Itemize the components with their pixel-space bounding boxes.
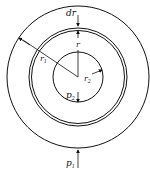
shell-diagram: dr r r1 r2 p2 p1: [0, 0, 150, 171]
label-r2: r2: [84, 74, 91, 84]
r1-arrow: [19, 38, 30, 45]
r1-radius-line: [23, 40, 78, 77]
label-p1: p1: [66, 158, 75, 169]
r2-arrow: [92, 70, 102, 74]
label-dr: dr: [66, 8, 77, 18]
label-p2: p2: [66, 90, 75, 101]
label-r: r: [76, 40, 81, 49]
